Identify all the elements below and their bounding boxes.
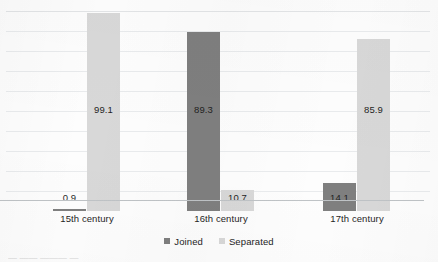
chart-screenshot: 0.9 99.1 89.3 10.7 14.1 85.9 15th centur… <box>0 0 438 262</box>
category-label-17th-century: 17th century <box>297 213 417 224</box>
bar-value-joined-17th-century: 14.1 <box>319 192 360 203</box>
bar-value-separated-15th-century: 99.1 <box>83 104 124 115</box>
chart-legend: Joined Separated <box>0 234 438 248</box>
legend-item-joined[interactable]: Joined <box>164 236 203 247</box>
category-label-15th-century: 15th century <box>27 213 147 224</box>
legend-swatch-icon-separated <box>219 238 225 244</box>
category-label-16th-century: 16th century <box>161 213 281 224</box>
bar-separated-17th-century[interactable] <box>357 39 390 211</box>
bar-value-joined-15th-century: 0.9 <box>49 192 90 203</box>
bar-value-joined-16th-century: 89.3 <box>183 104 224 115</box>
category-axis-line <box>0 200 424 201</box>
clipped-caption-fragment: — —— ——— — <box>8 253 228 262</box>
bar-joined-15th-century[interactable] <box>53 209 86 211</box>
category-axis: 15th century 16th century 17th century <box>6 213 430 228</box>
gridline-100 <box>6 11 430 12</box>
bar-joined-16th-century[interactable] <box>187 32 220 211</box>
bar-value-separated-16th-century: 10.7 <box>217 192 258 203</box>
plot-area: 0.9 99.1 89.3 10.7 14.1 85.9 <box>6 11 430 211</box>
legend-item-separated[interactable]: Separated <box>219 236 274 247</box>
bar-value-separated-17th-century: 85.9 <box>353 104 394 115</box>
legend-swatch-icon-joined <box>164 238 170 244</box>
legend-label-separated: Separated <box>229 236 274 247</box>
legend-label-joined: Joined <box>174 236 203 247</box>
